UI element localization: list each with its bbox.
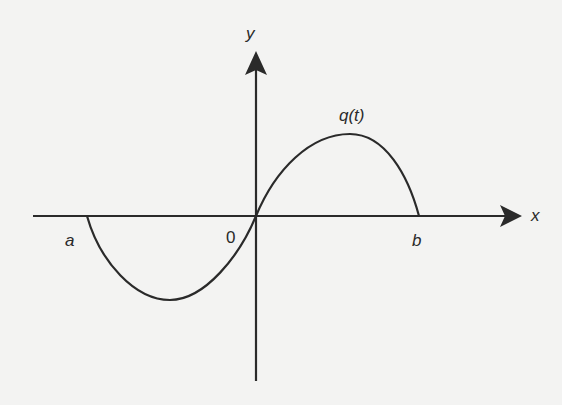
- curve-label: q(t): [339, 107, 365, 124]
- y-axis-label: y: [246, 25, 255, 42]
- diagram-canvas: [0, 0, 562, 405]
- origin-label: 0: [226, 229, 235, 246]
- root-a-label: a: [65, 232, 74, 249]
- q-of-t-diagram: y x 0 a b q(t): [0, 0, 562, 405]
- x-axis-label: x: [531, 207, 540, 224]
- root-b-label: b: [412, 232, 421, 249]
